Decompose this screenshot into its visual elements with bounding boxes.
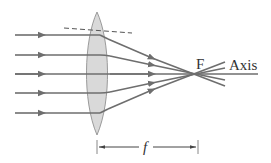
focal-point-label: F bbox=[196, 56, 204, 72]
focal-length-label: f bbox=[143, 139, 149, 155]
lens-diagram: F Axis f bbox=[0, 0, 271, 163]
axis-label: Axis bbox=[229, 57, 258, 73]
focal-length-dimension bbox=[97, 140, 198, 154]
diagram-canvas: F Axis f bbox=[0, 0, 271, 163]
